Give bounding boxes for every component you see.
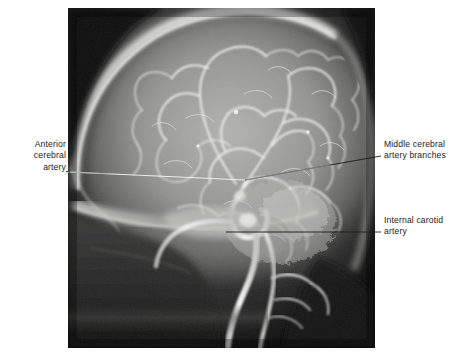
film-grain — [68, 8, 375, 348]
label-middle-cerebral-artery-branches: Middle cerebral artery branches — [384, 139, 460, 162]
radiograph-plate — [68, 8, 375, 348]
label-internal-carotid-artery: Internal carotid artery — [384, 215, 460, 238]
label-anterior-cerebral-artery: Anterior cerebral artery — [4, 139, 66, 173]
angiogram-image — [68, 8, 375, 348]
angiogram-figure: Anterior cerebral artery Middle cerebral… — [0, 0, 463, 361]
